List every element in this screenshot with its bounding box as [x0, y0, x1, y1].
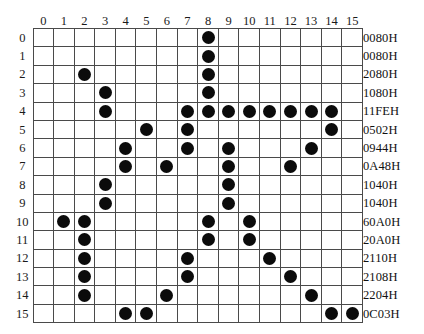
matrix-cell-empty[interactable] [321, 249, 342, 267]
matrix-cell-empty[interactable] [260, 176, 281, 194]
matrix-cell-filled[interactable] [198, 84, 219, 102]
matrix-cell-empty[interactable] [342, 47, 363, 65]
matrix-cell-filled[interactable] [74, 65, 95, 83]
matrix-cell-empty[interactable] [95, 157, 116, 175]
matrix-cell-filled[interactable] [74, 268, 95, 286]
matrix-cell-filled[interactable] [177, 139, 198, 157]
matrix-cell-filled[interactable] [136, 304, 157, 322]
matrix-cell-empty[interactable] [115, 102, 136, 120]
matrix-cell-empty[interactable] [54, 157, 75, 175]
matrix-cell-filled[interactable] [157, 157, 178, 175]
matrix-cell-empty[interactable] [260, 286, 281, 304]
matrix-cell-empty[interactable] [280, 29, 301, 47]
matrix-cell-empty[interactable] [136, 249, 157, 267]
matrix-cell-empty[interactable] [177, 231, 198, 249]
matrix-cell-empty[interactable] [239, 120, 260, 138]
matrix-cell-empty[interactable] [301, 212, 322, 230]
matrix-cell-empty[interactable] [54, 139, 75, 157]
matrix-cell-empty[interactable] [280, 176, 301, 194]
matrix-cell-empty[interactable] [342, 84, 363, 102]
matrix-cell-filled[interactable] [301, 286, 322, 304]
matrix-cell-empty[interactable] [218, 304, 239, 322]
matrix-cell-empty[interactable] [177, 65, 198, 83]
matrix-cell-empty[interactable] [198, 286, 219, 304]
matrix-cell-empty[interactable] [260, 157, 281, 175]
matrix-cell-empty[interactable] [321, 268, 342, 286]
matrix-cell-empty[interactable] [342, 268, 363, 286]
matrix-cell-empty[interactable] [301, 120, 322, 138]
matrix-cell-empty[interactable] [239, 29, 260, 47]
matrix-cell-filled[interactable] [301, 102, 322, 120]
matrix-cell-filled[interactable] [177, 120, 198, 138]
matrix-cell-empty[interactable] [95, 249, 116, 267]
matrix-cell-empty[interactable] [218, 231, 239, 249]
matrix-cell-filled[interactable] [280, 268, 301, 286]
matrix-cell-filled[interactable] [321, 102, 342, 120]
matrix-cell-empty[interactable] [321, 194, 342, 212]
matrix-cell-filled[interactable] [177, 268, 198, 286]
matrix-cell-empty[interactable] [157, 194, 178, 212]
matrix-cell-empty[interactable] [260, 47, 281, 65]
matrix-cell-empty[interactable] [95, 139, 116, 157]
matrix-cell-filled[interactable] [280, 102, 301, 120]
matrix-cell-empty[interactable] [218, 120, 239, 138]
matrix-cell-empty[interactable] [177, 194, 198, 212]
matrix-cell-empty[interactable] [95, 268, 116, 286]
matrix-cell-empty[interactable] [177, 212, 198, 230]
matrix-cell-empty[interactable] [33, 139, 54, 157]
matrix-cell-empty[interactable] [157, 212, 178, 230]
matrix-cell-empty[interactable] [218, 84, 239, 102]
matrix-cell-empty[interactable] [136, 194, 157, 212]
matrix-cell-empty[interactable] [260, 268, 281, 286]
matrix-cell-empty[interactable] [136, 157, 157, 175]
matrix-cell-filled[interactable] [198, 29, 219, 47]
matrix-cell-empty[interactable] [177, 286, 198, 304]
matrix-cell-filled[interactable] [260, 249, 281, 267]
matrix-cell-empty[interactable] [136, 47, 157, 65]
matrix-cell-empty[interactable] [115, 249, 136, 267]
matrix-cell-empty[interactable] [301, 304, 322, 322]
matrix-cell-filled[interactable] [321, 120, 342, 138]
matrix-cell-filled[interactable] [115, 139, 136, 157]
matrix-cell-empty[interactable] [239, 194, 260, 212]
matrix-cell-empty[interactable] [198, 249, 219, 267]
matrix-cell-empty[interactable] [198, 304, 219, 322]
matrix-cell-empty[interactable] [54, 84, 75, 102]
matrix-cell-empty[interactable] [177, 304, 198, 322]
matrix-cell-empty[interactable] [198, 157, 219, 175]
matrix-cell-empty[interactable] [54, 29, 75, 47]
matrix-cell-empty[interactable] [280, 231, 301, 249]
matrix-cell-empty[interactable] [239, 157, 260, 175]
matrix-cell-empty[interactable] [301, 268, 322, 286]
matrix-cell-filled[interactable] [177, 249, 198, 267]
matrix-cell-empty[interactable] [157, 120, 178, 138]
matrix-cell-empty[interactable] [115, 268, 136, 286]
matrix-cell-empty[interactable] [218, 29, 239, 47]
matrix-cell-empty[interactable] [54, 249, 75, 267]
matrix-cell-empty[interactable] [342, 29, 363, 47]
matrix-cell-empty[interactable] [280, 286, 301, 304]
matrix-cell-empty[interactable] [280, 194, 301, 212]
matrix-cell-filled[interactable] [198, 212, 219, 230]
matrix-cell-filled[interactable] [198, 65, 219, 83]
matrix-cell-empty[interactable] [239, 268, 260, 286]
matrix-cell-empty[interactable] [157, 65, 178, 83]
matrix-cell-empty[interactable] [74, 194, 95, 212]
matrix-cell-empty[interactable] [95, 65, 116, 83]
matrix-cell-empty[interactable] [33, 176, 54, 194]
matrix-cell-empty[interactable] [54, 102, 75, 120]
matrix-cell-empty[interactable] [115, 286, 136, 304]
matrix-cell-empty[interactable] [260, 120, 281, 138]
matrix-cell-empty[interactable] [239, 139, 260, 157]
matrix-cell-empty[interactable] [136, 139, 157, 157]
matrix-cell-empty[interactable] [54, 65, 75, 83]
matrix-cell-empty[interactable] [74, 84, 95, 102]
matrix-cell-empty[interactable] [54, 268, 75, 286]
matrix-cell-empty[interactable] [260, 194, 281, 212]
matrix-cell-empty[interactable] [321, 231, 342, 249]
matrix-cell-empty[interactable] [33, 157, 54, 175]
matrix-cell-empty[interactable] [136, 176, 157, 194]
matrix-cell-filled[interactable] [239, 102, 260, 120]
matrix-cell-filled[interactable] [218, 102, 239, 120]
matrix-cell-empty[interactable] [321, 65, 342, 83]
